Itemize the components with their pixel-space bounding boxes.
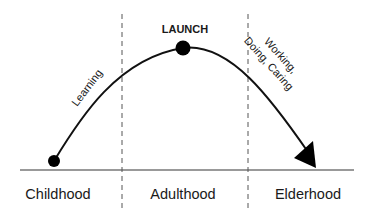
- life-arc-diagram: LAUNCH Learning Working, Doing, Caring C…: [0, 0, 372, 218]
- launch-label: LAUNCH: [162, 23, 208, 35]
- start-dot: [48, 155, 60, 167]
- stage-childhood: Childhood: [25, 186, 90, 202]
- arrowhead-icon: [294, 141, 316, 168]
- launch-dot: [176, 41, 191, 56]
- stage-elderhood: Elderhood: [275, 186, 341, 202]
- learning-label: Learning: [69, 67, 104, 108]
- stage-adulthood: Adulthood: [150, 186, 215, 202]
